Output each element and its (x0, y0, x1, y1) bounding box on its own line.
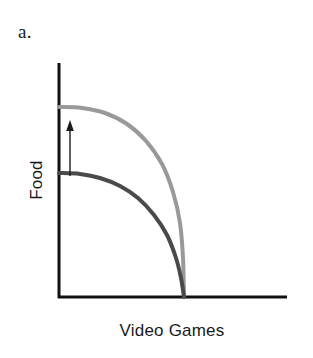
upward-shift-arrow (66, 120, 74, 176)
ppf-figure: a. Food Video Games (0, 0, 313, 358)
frontier-curve-original (59, 173, 184, 297)
arrow-head-icon (66, 120, 74, 131)
x-axis-title: Video Games (120, 321, 225, 341)
frontier-curve-shifted (59, 107, 184, 297)
plot-canvas (0, 0, 313, 358)
